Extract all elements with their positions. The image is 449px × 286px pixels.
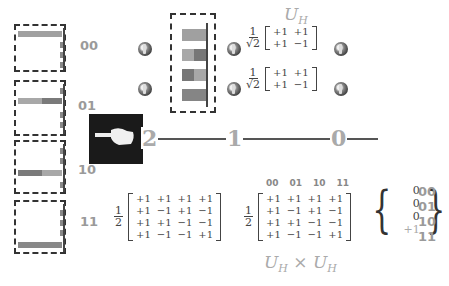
qubit-icon [227, 82, 241, 96]
state-label-10: 10 [78, 162, 96, 177]
amplitude-bar [18, 31, 62, 37]
gate-label: UH [284, 4, 308, 27]
wire-label-2: 2 [141, 127, 158, 149]
hadamard-matrix-2: 1√2 +1+1 +1−1 [246, 67, 317, 91]
matrix: +1+1 +1−1 [265, 26, 317, 50]
state-label-11: 11 [80, 214, 98, 229]
result-col-headers: 00 01 10 11 [266, 178, 349, 188]
wire-label-0: 0 [330, 127, 347, 149]
qubit-icon [334, 42, 348, 56]
wire-label-1: 1 [226, 127, 243, 149]
result-matrix: 12 +1+1+1+1 +1−1+1−1 +1+1−1−1 +1−1−1+1 [244, 193, 351, 241]
product-label: UH × UH [264, 252, 337, 275]
state-box-11 [14, 200, 66, 254]
state-label-01: 01 [78, 98, 96, 113]
matrix: +1+1+1+1 +1−1+1−1 +1+1−1−1 +1−1−1+1 [258, 193, 351, 241]
matrix: +1+1+1+1 +1−1+1−1 +1+1−1−1 +1−1−1+1 [128, 193, 221, 241]
state-vector: { 0 0 0 +1 } [366, 184, 449, 236]
state-label-00: 00 [80, 38, 98, 53]
hand-pointer-icon [89, 114, 143, 164]
qubit-icon [334, 82, 348, 96]
axis-line [63, 28, 65, 70]
two-qubit-hadamard: 12 +1+1+1+1 +1−1+1−1 +1+1−1−1 +1−1−1+1 [114, 193, 221, 241]
superposition-box [170, 13, 216, 113]
matrix: +1+1 +1−1 [265, 67, 317, 91]
result-row-labels: 00 01 10 11 [418, 184, 436, 244]
qubit-icon [138, 42, 152, 56]
state-box-01 [14, 80, 66, 136]
state-box-00 [14, 24, 66, 72]
qubit-icon [138, 82, 152, 96]
pointer-box[interactable] [89, 114, 143, 164]
hadamard-matrix-1: 1√2 +1+1 +1−1 [246, 26, 317, 50]
qubit-icon [227, 42, 241, 56]
state-box-10 [14, 140, 66, 194]
